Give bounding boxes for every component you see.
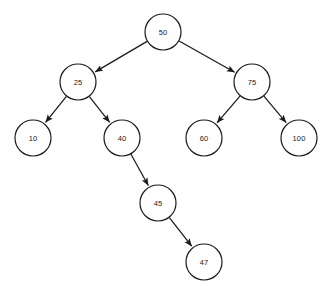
binary-search-tree-graphic: 5025751040601004547 [0,0,326,286]
tree-node-10[interactable]: 10 [15,120,51,156]
node-label-75: 75 [248,78,257,87]
tree-node-100[interactable]: 100 [281,120,317,156]
node-label-50: 50 [159,28,168,37]
tree-node-50[interactable]: 50 [145,14,181,50]
tree-edge-45-to-47 [169,218,191,247]
tree-node-75[interactable]: 75 [234,64,270,100]
node-label-45: 45 [154,199,163,208]
tree-edge-50-to-75 [179,41,234,72]
node-label-25: 25 [74,78,83,87]
tree-edge-25-to-40 [89,97,109,123]
tree-node-40[interactable]: 40 [104,120,140,156]
node-label-40: 40 [118,134,127,143]
nodes-layer: 5025751040601004547 [15,14,317,280]
tree-diagram-canvas: 5025751040601004547 [0,0,326,286]
node-label-60: 60 [200,134,209,143]
tree-node-25[interactable]: 25 [60,64,96,100]
tree-edge-75-to-60 [217,96,240,123]
node-label-10: 10 [29,134,38,143]
tree-node-47[interactable]: 47 [186,244,222,280]
tree-node-60[interactable]: 60 [186,120,222,156]
tree-edge-40-to-45 [131,154,148,185]
tree-edge-50-to-25 [95,41,147,71]
tree-node-45[interactable]: 45 [140,185,176,221]
node-label-100: 100 [292,134,305,143]
tree-edge-75-to-100 [264,96,286,123]
tree-edge-25-to-10 [46,96,67,122]
node-label-47: 47 [200,258,209,267]
